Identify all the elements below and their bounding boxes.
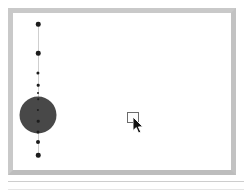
path-node-dot[interactable] (36, 71, 39, 74)
screenshot-root (0, 0, 252, 195)
path-node-dot[interactable] (37, 120, 40, 123)
large-filled-circle[interactable] (20, 97, 57, 134)
path-node-dot[interactable] (36, 51, 41, 56)
path-node-dot[interactable] (37, 98, 39, 100)
mouse-pointer-icon (133, 117, 145, 134)
path-node-dot[interactable] (36, 140, 40, 144)
path-node-dot[interactable] (36, 153, 41, 158)
path-node-dot[interactable] (37, 92, 39, 94)
cursor-group (127, 112, 149, 136)
path-node-dot[interactable] (36, 22, 41, 27)
path-node-dot[interactable] (37, 84, 40, 87)
footer-divider-bottom (8, 189, 244, 190)
drawing-canvas[interactable] (13, 13, 231, 170)
footer-divider-top (8, 181, 244, 182)
path-node-dot[interactable] (37, 131, 40, 134)
vertical-guide-line (38, 23, 39, 155)
